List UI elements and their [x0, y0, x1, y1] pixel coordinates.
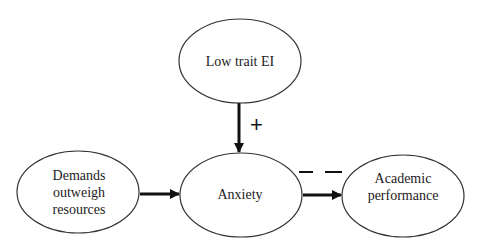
label-anxiety: Anxiety: [217, 186, 262, 203]
label-demands: Demands outweigh resources: [53, 167, 106, 218]
label-demands-line2: outweigh: [53, 184, 106, 201]
plus-sign: +: [250, 112, 263, 138]
label-academic-line2: performance: [368, 187, 439, 204]
label-academic: Academic performance: [368, 170, 439, 204]
label-low-trait-ei: Low trait EI: [206, 53, 274, 70]
label-demands-line1: Demands: [53, 167, 106, 184]
label-academic-line1: Academic: [368, 170, 439, 187]
label-demands-line3: resources: [53, 201, 106, 218]
